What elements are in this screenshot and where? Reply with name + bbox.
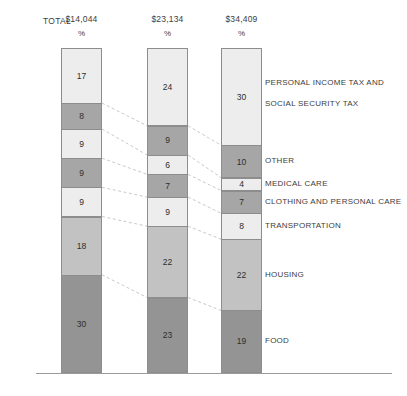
bar-segment-value: 7 [239,198,244,207]
column-percent-symbol-1: % [147,29,188,38]
connector-line [188,197,221,213]
bar-segment-value: 8 [239,222,244,231]
column-total-0: $14,044 [61,14,102,24]
bar-segment: 9 [61,187,102,217]
bar-segment: 19 [221,310,262,372]
connector-line [102,158,147,174]
bar-segment: 10 [221,145,262,178]
column-header-2: $34,409 % [221,14,262,38]
connector-line [188,174,221,190]
bar-segment: 18 [61,217,102,276]
connector-line [102,103,147,126]
category-label-line-1: PERSONAL INCOME TAX AND [265,78,384,87]
bar-segment-value: 22 [163,258,172,267]
bar-segment: 9 [147,197,188,227]
bar-segment-value: 9 [165,208,170,217]
bar-segment-value: 10 [237,158,246,167]
category-label-personal-income-tax: PERSONAL INCOME TAX AND SOCIAL SECURITY … [265,68,384,110]
bar-segment-value: 23 [163,331,172,340]
bar-segment-value: 8 [79,112,84,121]
bar-segment: 8 [61,103,102,130]
connector-line [102,216,147,226]
category-label-food: FOOD [265,336,289,347]
bar-segment: 4 [221,178,262,192]
bar-segment: 30 [61,275,102,373]
bar-segment-value: 17 [77,72,86,81]
bar-segment-value: 4 [239,180,244,189]
column-total-2: $34,409 [221,14,262,24]
chart-baseline [36,373,392,374]
bar-segment-value: 24 [163,83,172,92]
connector-line [188,126,221,145]
bar-segment-value: 9 [79,198,84,207]
category-label-transportation: TRANSPORTATION [265,221,341,232]
category-label-line-2: SOCIAL SECURITY TAX [265,99,358,108]
bar-segment: 9 [61,158,102,188]
column-total-1: $23,134 [147,14,188,24]
category-label-housing: HOUSING [265,270,304,281]
category-label-clothing-and-personal-care: CLOTHING AND PERSONAL CARE [265,197,401,208]
bar-segment-value: 30 [237,93,246,102]
bar-segment: 22 [221,239,262,311]
bar-segment: 6 [147,155,188,175]
bar-segment: 24 [147,48,188,126]
connector-line [102,275,147,298]
bar-segment-value: 22 [237,271,246,280]
bar-segment-value: 7 [165,182,170,191]
bar-segment-value: 9 [79,169,84,178]
category-label-other: OTHER [265,156,294,167]
bar-segment-value: 18 [77,242,86,251]
connector-line [188,297,221,310]
bar-segment: 8 [221,213,262,240]
column-header-0: $14,044 % [61,14,102,38]
bar-segment: 9 [147,126,188,156]
connector-line [102,129,147,155]
bar-segment: 22 [147,226,188,298]
bar-segment: 9 [61,129,102,159]
bar-segment-value: 30 [77,320,86,329]
connector-line [188,155,221,178]
bar-segment-value: 19 [237,337,246,346]
column-header-1: $23,134 % [147,14,188,38]
bar-segment-value: 9 [165,136,170,145]
bar-segment: 17 [61,48,102,104]
connector-line [102,187,147,197]
column-percent-symbol-2: % [221,29,262,38]
bar-segment: 23 [147,298,188,373]
bar-segment-value: 6 [165,161,170,170]
connector-line [188,226,221,239]
bar-segment: 7 [221,191,262,214]
stacked-bar-column-2: 30104782219 [221,48,262,372]
bar-segment: 7 [147,174,188,197]
stacked-bar-column-0: 1789991830 [61,48,102,372]
category-label-medical-care: MEDICAL CARE [265,179,328,190]
stacked-bar-column-1: 2496792223 [147,48,188,372]
bar-segment-value: 9 [79,140,84,149]
stacked-bar-chart: TOTAL $14,044 % $23,134 % $34,409 % 1789… [0,0,407,396]
bar-segment: 30 [221,48,262,146]
column-percent-symbol-0: % [61,29,102,38]
